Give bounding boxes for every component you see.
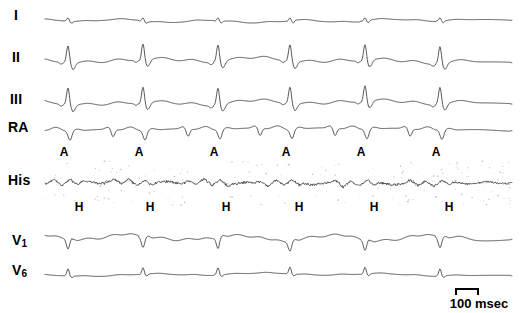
noise-speckle [461,194,463,196]
noise-speckle [161,167,162,168]
noise-speckle [76,191,77,192]
noise-speckle [100,185,102,187]
noise-speckle [170,179,171,180]
noise-speckle [502,166,503,167]
noise-speckle [263,204,264,205]
noise-speckle [98,200,99,201]
noise-speckle [456,162,457,163]
noise-speckle [249,176,250,177]
noise-speckle [182,196,184,198]
scale-bar-line [455,288,479,290]
waveform-lead-i [45,18,512,23]
noise-speckle [509,198,510,199]
noise-speckle [423,202,424,203]
noise-speckle [408,199,409,200]
noise-speckle [234,176,236,178]
noise-speckle [261,171,262,172]
scale-bar-cap-left [455,288,457,295]
noise-speckle [265,173,267,175]
noise-speckle [104,160,106,162]
noise-speckle [407,202,408,203]
atrial-deflection-marker: A [282,146,291,158]
noise-speckle [337,199,339,201]
noise-speckle [497,201,498,202]
noise-speckle [157,163,158,164]
noise-speckle [492,174,493,175]
noise-speckle [248,162,249,163]
noise-speckle [278,194,279,195]
his-deflection-marker: H [146,201,155,213]
noise-speckle [83,175,84,176]
waveform-his-bundle-electrogram [45,178,512,188]
noise-speckle [112,168,113,169]
channel-label-v1: V1 [12,233,27,249]
noise-speckle [113,202,114,203]
noise-speckle [486,183,487,184]
noise-speckle [93,175,94,176]
noise-speckle [508,162,509,163]
noise-speckle [455,180,457,182]
noise-speckle [286,178,287,179]
noise-speckle [499,171,501,173]
noise-speckle [237,195,238,196]
noise-speckle [338,164,340,166]
noise-speckle [502,172,504,174]
noise-speckle [463,204,465,206]
noise-speckle [320,174,321,175]
noise-speckle [256,164,257,165]
noise-speckle [481,165,482,166]
noise-speckle [263,177,264,178]
noise-speckle [288,164,290,166]
noise-speckle [399,186,400,187]
noise-speckle [378,187,379,188]
noise-speckle [468,176,469,177]
noise-speckle [118,169,119,170]
noise-speckle [106,179,108,181]
noise-speckle [312,173,314,175]
noise-speckle [399,203,400,204]
noise-speckle [139,177,140,178]
noise-speckle [457,169,458,170]
noise-speckle [174,176,175,177]
waveform-traces [45,18,512,278]
noise-speckle [168,166,169,167]
noise-speckle [135,186,136,187]
noise-speckle [509,203,510,204]
his-deflection-marker: H [295,201,304,213]
noise-speckle [144,175,145,176]
noise-speckle [335,175,336,176]
noise-speckle [507,197,508,198]
noise-speckle [478,190,479,191]
noise-speckle [461,172,462,173]
scale-bar-cap-right [477,288,479,295]
noise-speckle [169,169,170,170]
noise-speckle [466,176,468,178]
noise-speckle [400,177,402,179]
noise-speckle [55,175,56,176]
his-deflection-marker: H [75,201,84,213]
noise-speckle [471,197,473,199]
noise-speckle [400,165,402,167]
noise-speckle [510,200,511,201]
noise-speckle [67,163,68,164]
noise-speckle [283,180,284,181]
noise-speckle [72,171,73,172]
waveform-lead-v6 [45,267,512,277]
noise-speckle [95,168,96,169]
noise-speckle [249,171,250,172]
noise-speckle [231,196,233,198]
noise-speckle [182,179,183,180]
noise-speckle [98,170,100,172]
noise-speckle [230,196,232,198]
noise-speckle [509,187,511,189]
noise-speckle [401,172,402,173]
noise-speckle [228,183,230,185]
noise-speckle [103,203,104,204]
noise-speckle [432,180,433,181]
noise-speckle [142,200,143,201]
noise-speckle [410,162,411,163]
noise-speckle [250,198,251,199]
noise-speckle [326,191,327,192]
noise-speckle [292,179,293,180]
noise-speckle [475,204,476,205]
